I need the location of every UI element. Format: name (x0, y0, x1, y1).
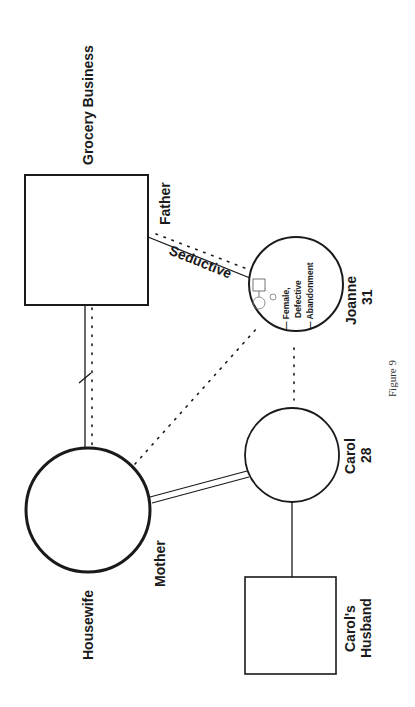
housewife-label: Housewife (80, 590, 96, 660)
joanne-note-2: Defective (293, 280, 303, 318)
carol-circle (245, 408, 339, 502)
father-square (25, 175, 148, 305)
seductive-label: Seductive (167, 242, 235, 282)
mother-circle (26, 448, 150, 572)
genogram-diagram: Grocery Business Father Seductive — Fema… (0, 0, 415, 707)
carol-name-label: Carol (342, 438, 358, 474)
mother-label: Mother (152, 540, 168, 587)
carols-husband-square (245, 577, 336, 674)
grocery-business-label: Grocery Business (80, 45, 96, 165)
carols-husband-label-1: Carol's (342, 605, 358, 652)
mother-carol-line-b (152, 477, 249, 503)
father-label: Father (157, 182, 173, 225)
mini-family-icon (253, 279, 276, 309)
carol-age-label: 28 (358, 447, 374, 463)
mother-carol-line-a (150, 471, 247, 497)
carols-husband-label-2: Husband (358, 598, 374, 658)
joanne-age-label: 31 (359, 289, 375, 305)
mother-joanne-dotted-line (135, 327, 258, 464)
joanne-name-label: Joanne (343, 276, 359, 325)
joanne-note-3: — Abandonment (305, 262, 315, 330)
figure-caption: Figure 9 (386, 360, 398, 397)
joanne-note-1: — Female, (281, 287, 291, 330)
